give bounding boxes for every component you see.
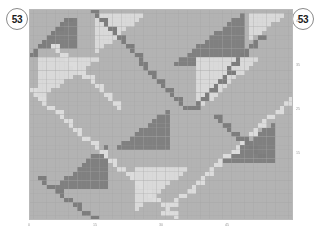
x-tick-3: 45 (225, 224, 229, 228)
axis-spine-right (292, 9, 293, 220)
heatmap-canvas (29, 9, 293, 220)
badge-left[interactable]: 53 (6, 8, 28, 30)
axis-spine-left (29, 9, 30, 220)
y-tick-0: 45 (296, 20, 300, 24)
heatmap-plot-area (29, 9, 293, 220)
axis-spine-top (29, 9, 293, 10)
y-tick-1: 35 (296, 64, 300, 68)
x-tick-2: 30 (159, 224, 163, 228)
badge-left-value: 53 (12, 14, 23, 25)
x-tick-0: 0 (28, 224, 30, 228)
y-tick-2: 25 (296, 108, 300, 112)
chart-root: 53 53 0153045 45352515 (0, 0, 320, 240)
axis-spine-bottom (29, 219, 293, 220)
y-tick-3: 15 (296, 152, 300, 156)
x-tick-1: 15 (93, 224, 97, 228)
